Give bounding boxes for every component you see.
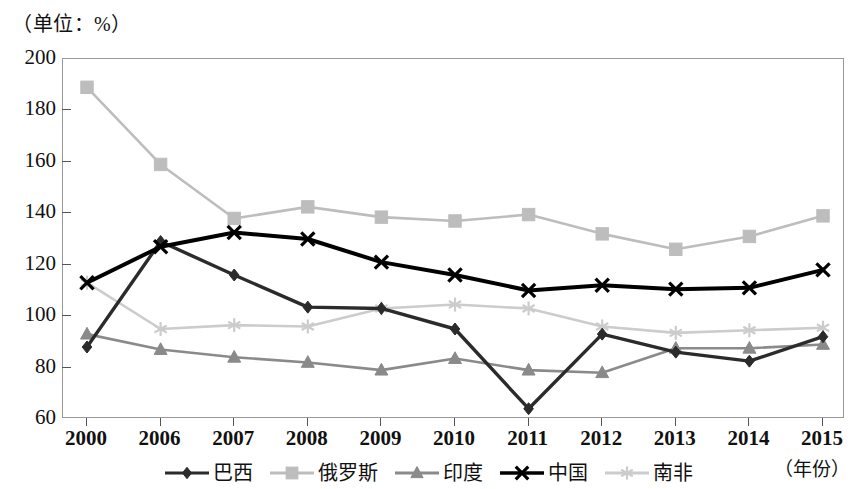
y-tick-mark [62,109,71,110]
legend-item-中国[interactable]: 中国 [499,463,588,483]
x-tick-label: 2006 [120,426,200,450]
legend-item-巴西[interactable]: 巴西 [164,463,253,483]
square-marker [81,81,93,93]
x-tick-label: 2000 [46,426,126,450]
diamond-marker [377,302,387,314]
legend-swatch-square-marker [269,464,315,482]
x-tick-label: 2015 [782,426,856,450]
legend-item-俄罗斯[interactable]: 俄罗斯 [269,463,378,483]
y-tick-label: 200 [4,47,56,68]
y-tick-label: 120 [4,253,56,274]
square-marker [154,158,166,170]
x-tick-label: 2010 [414,426,494,450]
square-marker [743,230,755,242]
x-tick-label: 2014 [708,426,788,450]
legend-swatch-x-marker [499,464,545,482]
y-tick-label: 180 [4,98,56,119]
y-tick-label: 60 [4,407,56,428]
square-marker [302,201,314,213]
legend-swatch-asterisk-marker [604,464,650,482]
x-tick-mark [454,418,455,426]
diamond-marker [745,355,755,367]
series-俄罗斯 [81,81,829,255]
x-tick-label: 2007 [193,426,273,450]
series-line [87,233,823,291]
y-axis-labels: 2001801601401201008060 [0,0,56,489]
legend-item-南非[interactable]: 南非 [604,463,693,483]
legend-swatch-triangle-marker [394,464,440,482]
square-marker [375,211,387,223]
x-tick-mark [601,418,602,426]
square-marker [817,210,829,222]
y-tick-mark [62,161,71,162]
x-tick-mark [675,418,676,426]
y-tick-label: 160 [4,150,56,171]
square-marker [286,467,298,479]
y-tick-mark [62,212,71,213]
diamond-marker [182,467,191,478]
square-marker [596,228,608,240]
square-marker [670,243,682,255]
x-tick-label: 2009 [340,426,420,450]
legend-label: 印度 [443,463,483,483]
legend-label: 中国 [548,463,588,483]
y-tick-label: 100 [4,304,56,325]
x-tick-mark [233,418,234,426]
diamond-marker [818,331,828,343]
diamond-marker [229,269,239,281]
square-marker [522,208,534,220]
y-tick-label: 80 [4,356,56,377]
square-marker [449,215,461,227]
x-tick-mark [748,418,749,426]
x-tick-mark [86,418,87,426]
legend-label: 南非 [653,463,693,483]
diamond-marker [303,301,313,313]
x-tick-label: 2011 [488,426,568,450]
x-axis-labels: 2000200620072008200920102011201220132014… [0,426,856,456]
triangle-marker [81,327,94,339]
triangle-marker [449,352,462,364]
chart-legend: 巴西俄罗斯印度中国南非 [0,458,856,488]
x-tick-label: 2012 [561,426,641,450]
legend-label: 巴西 [213,463,253,483]
x-tick-mark [307,418,308,426]
legend-swatch-diamond-marker [164,464,210,482]
x-tick-mark [380,418,381,426]
series-巴西 [82,236,828,415]
plot-area [62,58,844,418]
plot-svg [63,59,845,419]
x-tick-mark [160,418,161,426]
y-tick-label: 140 [4,201,56,222]
series-中国 [80,226,829,297]
brics-line-chart: （单位：%） 2001801601401201008060 2000200620… [0,0,856,489]
x-axis-year-caption: （年份） [774,459,850,481]
x-tick-mark [528,418,529,426]
legend-label: 俄罗斯 [318,463,378,483]
y-tick-mark [62,367,71,368]
x-tick-label: 2013 [635,426,715,450]
legend-item-印度[interactable]: 印度 [394,463,483,483]
y-tick-mark [62,315,71,316]
x-tick-label: 2008 [267,426,347,450]
square-marker [228,212,240,224]
y-tick-mark [62,264,71,265]
x-tick-mark [822,418,823,426]
